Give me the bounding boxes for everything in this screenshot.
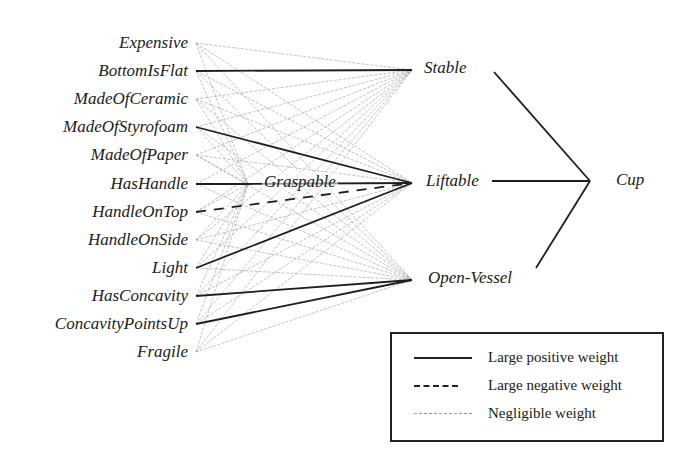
hidden-node-graspable: Graspable [262,172,338,192]
input-node-madeofpaper: MadeOfPaper [91,145,188,165]
input-node-hashandle: HasHandle [111,174,188,194]
input-node-handleontop: HandleOnTop [92,202,188,222]
input-node-expensive: Expensive [119,33,188,53]
input-node-madeofstyrofoam: MadeOfStyrofoam [63,117,188,137]
hidden-node-stable: Stable [424,58,467,78]
input-node-bottomisflat: BottomIsFlat [98,61,188,81]
legend-item-negligible: Negligible weight [392,402,662,426]
legend-label: Large positive weight [488,346,619,368]
legend-label: Large negative weight [488,374,622,396]
solid-line-icon [414,357,472,359]
output-node-cup: Cup [616,170,644,190]
faint-dashed-line-icon [414,413,472,414]
input-node-madeofceramic: MadeOfCeramic [74,89,188,109]
legend-item-positive: Large positive weight [392,346,662,370]
legend-label: Negligible weight [488,402,596,424]
legend: Large positive weight Large negative wei… [390,332,664,442]
legend-item-negative: Large negative weight [392,374,662,398]
input-node-hasconcavity: HasConcavity [92,286,188,306]
hidden-node-liftable: Liftable [426,171,479,191]
hidden-node-open-vessel: Open-Vessel [428,268,512,288]
input-node-concavitypointsup: ConcavityPointsUp [55,314,188,334]
dashed-line-icon [414,385,458,387]
network-diagram: Expensive BottomIsFlat MadeOfCeramic Mad… [0,0,686,475]
input-node-handleonside: HandleOnSide [88,230,188,250]
input-node-light: Light [152,258,188,278]
input-node-fragile: Fragile [137,342,188,362]
